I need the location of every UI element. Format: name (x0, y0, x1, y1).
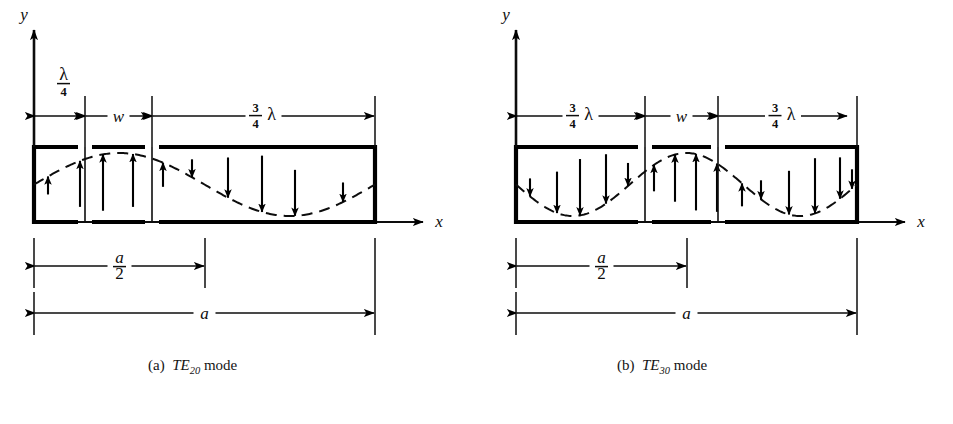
label-half-a: a2 (595, 248, 608, 283)
caption-mode-symbol: TE (642, 357, 660, 373)
svg-text:2: 2 (115, 264, 124, 283)
svg-text:λ: λ (59, 64, 68, 84)
field-envelope-curve (516, 153, 857, 216)
fraction-three-quarters: 34 (769, 101, 782, 131)
panel-te30: yx34λw34λa2a (500, 5, 925, 335)
fraction-three-quarters: 34 (566, 101, 579, 131)
x-axis-label: x (916, 212, 925, 231)
label-three-quarter-lambda: 34λ (249, 101, 276, 131)
label-quarter-lambda: λ4 (57, 64, 70, 99)
top-dimension-chain: λ4w34λ (35, 64, 374, 131)
fraction-three-quarters: 34 (249, 101, 262, 131)
y-axis-label: y (18, 5, 28, 24)
label-full-a: a (200, 304, 209, 323)
svg-text:2: 2 (597, 264, 606, 283)
label-slot-width: w (113, 107, 125, 126)
svg-text:λ: λ (584, 104, 593, 124)
label-slot-width: w (676, 107, 688, 126)
field-arrow-group (530, 154, 852, 215)
figure-canvas: yxλ4w34λa2a yx34λw34λa2a (0, 0, 953, 424)
bottom-dimension-chain: a2a (516, 238, 857, 335)
axes: yx (500, 5, 925, 231)
caption-mode-subscript: 30 (660, 365, 671, 376)
waveguide-mode-figure: yxλ4w34λa2a yx34λw34λa2a (a) TE20 mode (… (0, 0, 953, 424)
bottom-dimension-chain: a2a (34, 238, 375, 335)
label-full-a: a (682, 304, 691, 323)
caption-tail: mode (200, 357, 237, 373)
waveguide-outline (516, 145, 857, 224)
caption-te20: (a) TE20 mode (148, 357, 237, 376)
x-axis-label: x (434, 212, 443, 231)
svg-text:4: 4 (252, 117, 259, 131)
divider-lines (34, 96, 375, 222)
caption-tail: mode (670, 357, 707, 373)
caption-te30: (b) TE30 mode (617, 357, 707, 376)
svg-text:4: 4 (772, 117, 779, 131)
y-axis-label: y (500, 5, 510, 24)
label-three-quarter-lambda-right: 34λ (769, 101, 796, 131)
svg-text:3: 3 (569, 101, 575, 115)
caption-mode-subscript: 20 (190, 365, 201, 376)
caption-index: (a) (148, 357, 172, 373)
field-arrow-group (48, 154, 343, 216)
caption-mode-symbol: TE (172, 357, 190, 373)
axes: yx (18, 5, 443, 231)
svg-text:3: 3 (772, 101, 778, 115)
svg-text:4: 4 (60, 85, 67, 99)
panel-te20: yxλ4w34λa2a (18, 5, 443, 335)
label-three-quarter-lambda-left: 34λ (566, 101, 593, 131)
svg-text:3: 3 (252, 101, 258, 115)
svg-text:λ: λ (787, 104, 796, 124)
caption-index: (b) (617, 357, 642, 373)
svg-text:4: 4 (569, 117, 576, 131)
svg-text:λ: λ (267, 104, 276, 124)
top-dimension-chain: 34λw34λ (517, 101, 847, 131)
label-half-a: a2 (113, 248, 126, 283)
